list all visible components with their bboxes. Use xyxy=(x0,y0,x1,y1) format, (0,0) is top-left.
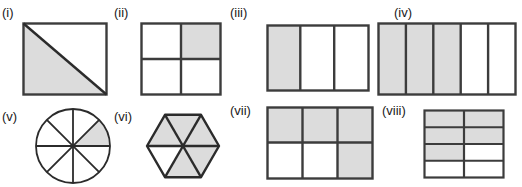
figure-i-label: (i) xyxy=(2,6,14,19)
figure-ii-label: (ii) xyxy=(114,6,128,19)
figure-ii: (ii) xyxy=(112,2,224,94)
figure-vi-shape xyxy=(143,108,223,184)
figure-viii-shape xyxy=(423,109,505,179)
figure-v-label: (v) xyxy=(2,110,17,123)
figure-i-shape xyxy=(22,22,108,96)
shaded-cell-row3-left xyxy=(425,144,465,161)
shaded-sector xyxy=(73,120,110,146)
figure-v-shape xyxy=(33,106,113,186)
figure-vi-label: (vi) xyxy=(114,110,132,123)
figure-sheet: (i) (ii) (iii) xyxy=(0,0,522,187)
figure-vii-label: (vii) xyxy=(230,104,251,117)
shaded-cell xyxy=(268,26,301,91)
figure-iii: (iii) xyxy=(228,2,368,94)
figure-viii: (viii) xyxy=(380,96,522,187)
shaded-row-top xyxy=(268,108,373,143)
shaded-cells xyxy=(379,24,461,95)
figure-iii-shape xyxy=(266,24,370,92)
figure-vii-shape xyxy=(266,106,374,180)
figure-vii: (vii) xyxy=(228,96,376,187)
figure-iv-shape xyxy=(377,22,517,96)
shaded-cell xyxy=(181,24,221,59)
figure-iv-label: (iv) xyxy=(394,6,412,19)
figure-v: (v) xyxy=(0,96,112,187)
shaded-cell-bottom-right xyxy=(338,143,373,178)
figure-ii-shape xyxy=(140,22,222,96)
figure-vi: (vi) xyxy=(112,96,226,187)
figure-iii-label: (iii) xyxy=(230,6,247,19)
figure-viii-label: (viii) xyxy=(382,104,406,117)
figure-iv: (iv) xyxy=(372,2,522,94)
figure-i: (i) xyxy=(0,2,110,94)
